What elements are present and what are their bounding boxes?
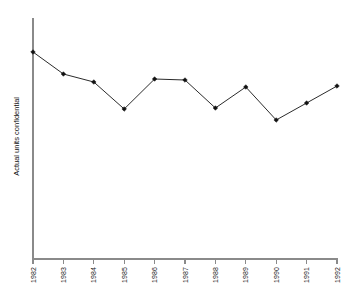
x-tick-label: 1989 <box>242 267 249 283</box>
x-tick-label: 1992 <box>334 267 341 283</box>
series-markers <box>31 50 340 123</box>
x-tick-label: 1991 <box>303 267 310 283</box>
x-tick-label: 1985 <box>121 267 128 283</box>
x-tick-label: 1988 <box>212 267 219 283</box>
x-tick-label: 1982 <box>30 267 37 283</box>
x-tick-label: 1986 <box>151 267 158 283</box>
data-point <box>335 84 340 89</box>
x-tick-label: 1983 <box>60 267 67 283</box>
line-chart: Actual units confidential 19821983198419… <box>0 0 355 302</box>
data-point <box>304 101 309 106</box>
plot-area <box>0 0 355 302</box>
x-tick-label: 1984 <box>90 267 97 283</box>
y-axis-label: Actual units confidential <box>13 97 21 176</box>
x-tick-label: 1990 <box>273 267 280 283</box>
x-tick-label: 1987 <box>182 267 189 283</box>
series-line <box>33 52 337 120</box>
